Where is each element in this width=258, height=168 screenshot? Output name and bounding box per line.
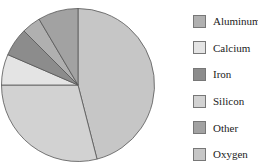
legend-swatch xyxy=(193,15,206,28)
legend-item-silicon: Silicon xyxy=(193,88,258,115)
pie-chart xyxy=(0,7,158,165)
legend-label: Other xyxy=(213,122,238,134)
legend-label: Aluminum xyxy=(213,15,258,27)
legend-swatch xyxy=(193,68,206,81)
legend-item-other: Other xyxy=(193,114,258,141)
legend-swatch xyxy=(193,121,206,134)
legend-swatch xyxy=(193,95,206,108)
legend-label: Oxygen xyxy=(213,148,248,160)
legend-item-iron: Iron xyxy=(193,61,258,88)
legend-item-aluminum: Aluminum xyxy=(193,8,258,35)
legend-swatch xyxy=(193,148,206,161)
legend-label: Iron xyxy=(213,68,231,80)
legend-swatch xyxy=(193,41,206,54)
legend-label: Silicon xyxy=(213,95,244,107)
legend-item-oxygen: Oxygen xyxy=(193,141,258,168)
legend-label: Calcium xyxy=(213,42,250,54)
legend: Aluminum Calcium Iron Silicon Other Oxyg… xyxy=(193,8,258,168)
legend-item-calcium: Calcium xyxy=(193,35,258,62)
